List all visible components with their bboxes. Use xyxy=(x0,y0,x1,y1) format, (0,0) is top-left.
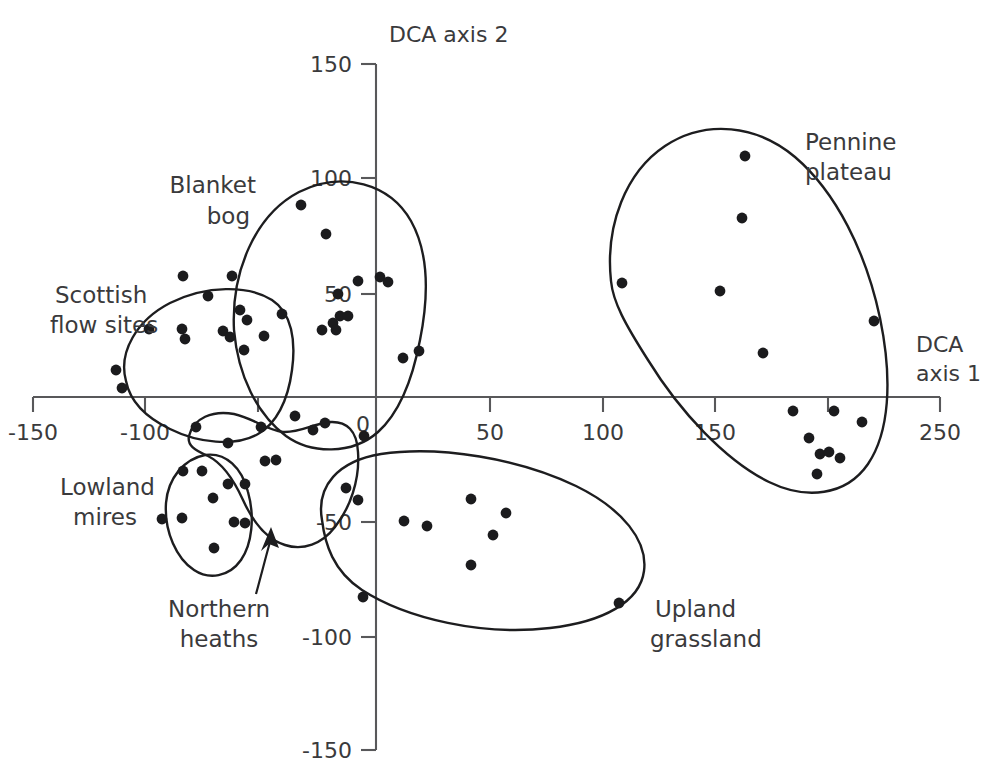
data-point xyxy=(177,324,188,335)
data-point xyxy=(320,418,331,429)
x-axis-title-line2: axis 1 xyxy=(916,361,981,386)
data-point xyxy=(271,455,282,466)
data-point xyxy=(333,289,344,300)
dca-ordination-figure: -150 -100 50 100 150 250 150 100 50 0 -5… xyxy=(0,0,981,768)
data-point xyxy=(223,479,234,490)
data-point xyxy=(321,229,332,240)
label-lowland-mires-line2: mires xyxy=(73,504,137,530)
x-axis-title-line1: DCA xyxy=(916,332,963,357)
label-pennine-plateau-line2: plateau xyxy=(805,159,892,185)
data-point xyxy=(617,278,628,289)
data-point xyxy=(331,325,342,336)
data-point xyxy=(353,276,364,287)
data-point xyxy=(737,213,748,224)
data-point xyxy=(239,345,250,356)
data-point xyxy=(829,406,840,417)
data-point xyxy=(715,286,726,297)
series-upland-grassland xyxy=(341,483,625,609)
data-point xyxy=(812,469,823,480)
data-point xyxy=(157,514,168,525)
label-blanket-bog-line1: Blanket xyxy=(169,172,256,198)
label-upland-grassland-line2: grassland xyxy=(650,626,762,652)
data-point xyxy=(614,598,625,609)
y-tick-label--100: -100 xyxy=(302,625,352,650)
pointer-arrow-line xyxy=(256,542,270,594)
data-point xyxy=(488,530,499,541)
data-point xyxy=(178,466,189,477)
series-pennine-plateau xyxy=(617,151,880,480)
data-point xyxy=(398,353,409,364)
data-point xyxy=(835,453,846,464)
label-northern-heaths-line2: heaths xyxy=(180,626,258,652)
label-lowland-mires-line1: Lowland xyxy=(60,474,155,500)
data-point xyxy=(260,456,271,467)
northern-heaths-pointer xyxy=(256,527,279,594)
x-tick-label-150: 150 xyxy=(694,420,736,445)
data-point xyxy=(227,271,238,282)
data-point xyxy=(296,200,307,211)
data-point xyxy=(203,291,214,302)
label-northern-heaths-line1: Northern xyxy=(168,596,270,622)
data-point xyxy=(208,493,219,504)
data-point xyxy=(111,365,122,376)
data-point xyxy=(177,513,188,524)
data-point xyxy=(343,311,354,322)
label-scottish-flow-sites-line1: Scottish xyxy=(55,282,147,308)
data-point xyxy=(225,332,236,343)
series-blanket-bog xyxy=(277,200,425,442)
data-point xyxy=(358,592,369,603)
data-point xyxy=(178,271,189,282)
data-point xyxy=(317,325,328,336)
hull-upland-grassland xyxy=(321,451,644,630)
hull-blanket-bog xyxy=(234,182,426,450)
data-point xyxy=(869,316,880,327)
x-tick-label-50: 50 xyxy=(476,420,504,445)
data-point xyxy=(422,521,433,532)
data-point xyxy=(209,543,220,554)
data-point xyxy=(501,508,512,519)
data-point xyxy=(383,277,394,288)
x-tick-label--150: -150 xyxy=(8,420,58,445)
data-point xyxy=(353,495,364,506)
data-point xyxy=(758,348,769,359)
data-point xyxy=(740,151,751,162)
label-pennine-plateau-line1: Pennine xyxy=(805,129,896,155)
data-point xyxy=(857,417,868,428)
data-point xyxy=(308,425,319,436)
y-tick-label-100: 100 xyxy=(310,166,352,191)
data-point xyxy=(223,438,234,449)
data-point xyxy=(256,422,267,433)
group-labels: Blanket bog Scottish flow sites Lowland … xyxy=(50,129,896,652)
scatter-plot-canvas: -150 -100 50 100 150 250 150 100 50 0 -5… xyxy=(0,0,981,768)
data-point xyxy=(242,315,253,326)
y-tick-label-150: 150 xyxy=(310,52,352,77)
data-point xyxy=(804,433,815,444)
data-point xyxy=(259,331,270,342)
data-point xyxy=(788,406,799,417)
label-upland-grassland-line1: Upland xyxy=(655,596,736,622)
data-point xyxy=(414,346,425,357)
data-point xyxy=(815,449,826,460)
data-point xyxy=(191,422,202,433)
label-scottish-flow-sites-line2: flow sites xyxy=(50,312,158,338)
x-tick-label-100: 100 xyxy=(582,420,624,445)
data-point xyxy=(229,517,240,528)
data-point xyxy=(180,334,191,345)
data-point xyxy=(240,518,251,529)
data-point xyxy=(341,483,352,494)
data-point xyxy=(399,516,410,527)
data-point xyxy=(235,305,246,316)
data-point xyxy=(117,383,128,394)
y-axis-title: DCA axis 2 xyxy=(389,22,508,47)
y-tick-label--150: -150 xyxy=(302,738,352,763)
data-point xyxy=(197,466,208,477)
data-point xyxy=(466,494,477,505)
data-point xyxy=(290,411,301,422)
data-point xyxy=(466,560,477,571)
data-point xyxy=(277,309,288,320)
x-tick-label-250: 250 xyxy=(919,420,961,445)
data-point xyxy=(824,447,835,458)
label-blanket-bog-line2: bog xyxy=(207,203,250,229)
data-point xyxy=(359,431,370,442)
data-point xyxy=(240,479,251,490)
